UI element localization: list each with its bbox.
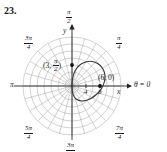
annotation-6-0: (6, 0) <box>98 74 114 82</box>
angle-label-3pi-over-2: 3π 2 <box>66 141 75 152</box>
y-axis-label: y <box>63 27 66 35</box>
problem-number: 23. <box>4 6 17 16</box>
angle-label-7pi-over-4-denominator: 4 <box>115 134 124 141</box>
angle-label-3pi-over-4: 3π 4 <box>24 34 33 51</box>
angle-label-pi-over-4-denominator: 4 <box>116 44 122 51</box>
angle-label-pi-over-2-denominator: 2 <box>66 18 72 25</box>
annotation-3-pi-over-2-open: (3, <box>43 61 53 70</box>
angle-label-pi-over-2: π 2 <box>66 8 72 25</box>
angle-label-3pi-over-4-denominator: 4 <box>24 44 33 51</box>
angle-label-pi-over-4: π 4 <box>116 34 122 51</box>
angle-label-5pi-over-4-denominator: 4 <box>24 134 33 141</box>
annotation-3-pi-over-2-close: ) <box>59 61 62 70</box>
radial-tick-label-8: 8 <box>98 89 102 96</box>
annotation-3-pi-over-2: (3, π 2 ) <box>43 58 61 74</box>
angle-label-7pi-over-4: 7π 4 <box>115 124 124 141</box>
radial-tick-label-4: 4 <box>84 89 88 96</box>
angle-label-5pi-over-4: 5π 4 <box>24 124 33 141</box>
x-axis-label: x <box>117 88 120 96</box>
angle-label-3pi-over-2-denominator: 2 <box>66 151 75 152</box>
theta-zero-label: θ = 0 <box>134 81 150 89</box>
data-point-3-pi-over-2 <box>70 63 74 67</box>
angle-label-pi: π <box>10 81 14 89</box>
